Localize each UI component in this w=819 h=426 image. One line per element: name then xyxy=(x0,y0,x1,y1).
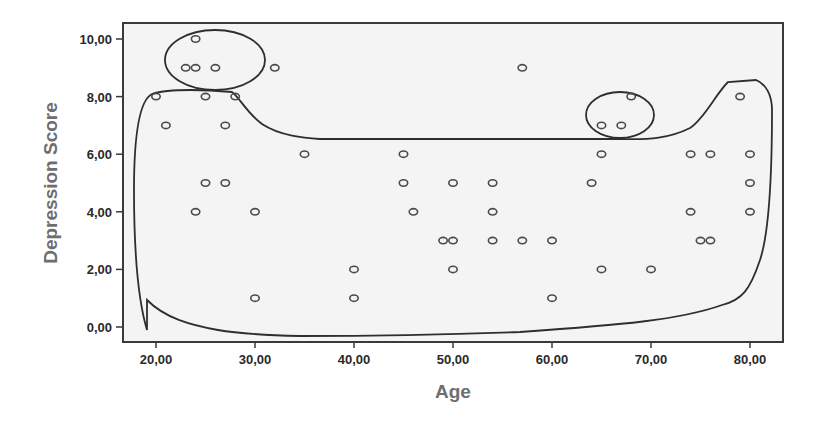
x-axis-title: Age xyxy=(435,381,471,402)
plot-area xyxy=(123,23,783,342)
x-tick-label: 40,00 xyxy=(338,352,371,367)
y-tick-label: 6,00 xyxy=(87,147,112,162)
y-tick-label: 4,00 xyxy=(87,205,112,220)
x-tick-label: 50,00 xyxy=(437,352,470,367)
x-tick-label: 80,00 xyxy=(734,352,767,367)
x-tick-label: 20,00 xyxy=(140,352,173,367)
x-tick-label: 70,00 xyxy=(635,352,668,367)
x-tick-label: 60,00 xyxy=(536,352,569,367)
y-axis-title: Depression Score xyxy=(40,102,61,264)
x-tick-label: 30,00 xyxy=(239,352,272,367)
y-tick-label: 0,00 xyxy=(87,320,112,335)
y-tick-label: 2,00 xyxy=(87,262,112,277)
y-tick-label: 10,00 xyxy=(79,32,112,47)
y-tick-label: 8,00 xyxy=(87,90,112,105)
x-axis: 20,0030,0040,0050,0060,0070,0080,00 xyxy=(140,342,767,367)
scatter-chart: 20,0030,0040,0050,0060,0070,0080,00 0,00… xyxy=(0,0,819,426)
y-axis: 0,002,004,006,008,0010,00 xyxy=(79,32,123,335)
